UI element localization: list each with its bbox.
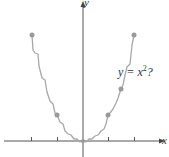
axes <box>4 4 161 157</box>
equation-question-mark: ? <box>147 65 153 79</box>
equation-annotation: y = x2? <box>118 64 153 80</box>
point-0 <box>81 139 85 143</box>
equation-base: y = x <box>118 65 143 79</box>
point-1.5 <box>119 87 124 92</box>
point-1 <box>106 113 111 118</box>
x-axis-label: x <box>162 134 167 146</box>
point-neg2 <box>30 33 35 38</box>
point-2 <box>132 33 137 38</box>
y-axis-label: y <box>84 0 89 8</box>
point-neg1 <box>55 113 60 118</box>
